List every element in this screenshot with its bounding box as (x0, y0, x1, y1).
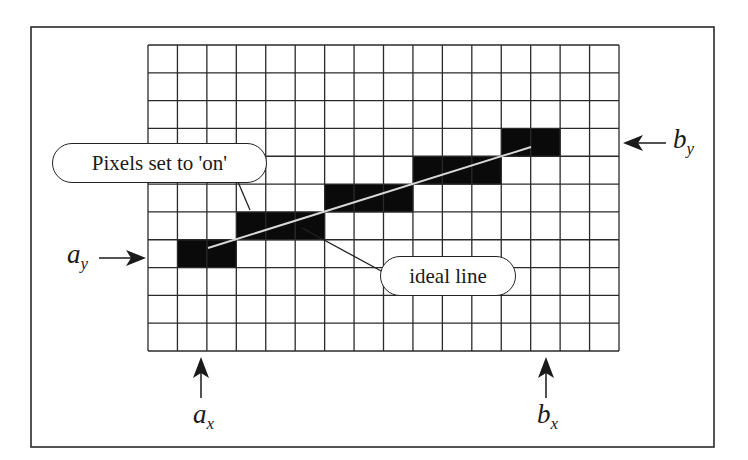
pixel-grid (148, 45, 619, 351)
pixels-on-callout: Pixels set to 'on' (52, 143, 267, 183)
ideal-line-callout: ideal line (380, 256, 516, 296)
ax-arrow-icon (193, 357, 209, 398)
pixels-callout-leader (238, 182, 250, 210)
pixel-on (531, 128, 561, 156)
ideal-line-callout-text: ideal line (409, 264, 487, 289)
label-by: by (673, 126, 694, 157)
outer-frame (31, 27, 714, 447)
diagram-canvas: Pixels set to 'on' ideal line ay by ax b… (0, 0, 748, 460)
pixel-on (413, 156, 443, 184)
pixels-on-callout-text: Pixels set to 'on' (92, 151, 227, 176)
pixel-on (177, 240, 207, 268)
label-ax: ax (193, 401, 214, 432)
pixel-on (236, 212, 266, 240)
raster-diagram (0, 0, 748, 460)
pixel-on (325, 184, 355, 212)
ideal-line-callout-leader (302, 228, 383, 272)
by-arrow-icon (623, 135, 666, 151)
label-ay: ay (67, 241, 88, 272)
label-bx: bx (537, 401, 558, 432)
bx-arrow-icon (538, 357, 554, 398)
ay-arrow-icon (99, 250, 146, 266)
